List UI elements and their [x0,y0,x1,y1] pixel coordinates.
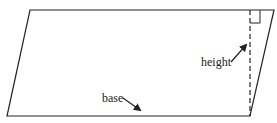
right-angle-marker [250,10,260,23]
parallelogram-diagram: height base [0,0,277,123]
height-label: height [201,55,232,69]
diagram-canvas: height base [0,0,277,123]
base-arrow [123,98,140,110]
parallelogram-outline [7,10,274,116]
height-arrow [231,45,246,62]
base-label: base [102,91,123,105]
